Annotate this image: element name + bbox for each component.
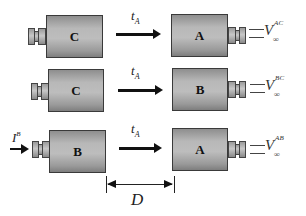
output-voltage-label-row2: V BC ∞ xyxy=(265,77,274,94)
cylinder-label: C xyxy=(49,83,103,99)
dimension-line xyxy=(108,184,172,185)
dimension-tick-right xyxy=(174,176,175,193)
right-cylinder-cap-row1 xyxy=(228,27,246,44)
input-current-label: IB xyxy=(12,130,21,146)
right-cylinder-cap-row3 xyxy=(228,141,246,158)
cylinder-label: C xyxy=(47,29,102,45)
dimension-label: D xyxy=(131,190,143,210)
equals-lines-row2 xyxy=(250,84,265,93)
right-cylinder-cap-row2 xyxy=(228,81,246,98)
output-voltage-label-row3: V AB ∞ xyxy=(265,137,274,154)
right-cylinder-row2: B xyxy=(172,68,228,111)
left-cylinder-cap-row2 xyxy=(31,83,49,100)
right-cylinder-row1: A xyxy=(171,14,228,57)
cylinder-label: B xyxy=(173,82,227,98)
left-cylinder-cap-row1 xyxy=(28,28,46,45)
transfer-time-label-row2: tA xyxy=(131,63,140,81)
cylinder-label: B xyxy=(50,144,105,160)
left-cylinder-cap-row3 xyxy=(32,141,50,158)
cylinder-label: A xyxy=(173,142,227,158)
dimension-arrowhead-right xyxy=(164,180,173,188)
transfer-time-label-row1: tA xyxy=(131,8,140,26)
left-cylinder-row3: B xyxy=(49,130,106,173)
left-cylinder-row1: C xyxy=(46,15,103,58)
left-cylinder-row2: C xyxy=(48,69,104,112)
cylinder-label: A xyxy=(172,28,227,44)
right-cylinder-row3: A xyxy=(172,128,228,171)
dimension-arrowhead-left xyxy=(107,180,116,188)
transfer-time-label-row3: tA xyxy=(131,121,140,139)
equals-lines-row3 xyxy=(250,145,265,154)
equals-lines-row1 xyxy=(249,29,264,38)
output-voltage-label-row1: V AC ∞ xyxy=(264,22,273,39)
